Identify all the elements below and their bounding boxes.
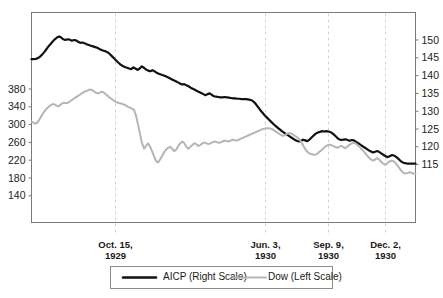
right-tick-label-120: 120 bbox=[422, 140, 440, 152]
x-label-line1-2: Jun. 3, bbox=[250, 239, 280, 250]
x-label-line1-1: Oct. 15, bbox=[98, 239, 132, 250]
right-tick-label-135: 135 bbox=[422, 87, 440, 99]
left-tick-label-340: 340 bbox=[8, 100, 26, 112]
series-lines bbox=[32, 36, 416, 173]
x-axis-event-labels: Oct. 15,1929Jun. 3,1930Sep. 9,1930Dec. 2… bbox=[98, 239, 400, 261]
series-line-dow bbox=[32, 89, 416, 173]
chart-container: 380340300260220180140 150145140135130125… bbox=[0, 0, 443, 298]
x-label-line1-3: Sep. 9, bbox=[313, 239, 344, 250]
left-tick-label-260: 260 bbox=[8, 136, 26, 148]
right-tick-label-145: 145 bbox=[422, 51, 440, 63]
right-tick-label-130: 130 bbox=[422, 105, 440, 117]
line-chart: 380340300260220180140 150145140135130125… bbox=[0, 0, 443, 298]
right-tick-label-140: 140 bbox=[422, 69, 440, 81]
x-label-line2-3: 1930 bbox=[318, 250, 339, 261]
left-tick-label-140: 140 bbox=[8, 189, 26, 201]
right-tick-label-125: 125 bbox=[422, 123, 440, 135]
left-axis-tick-labels: 380340300260220180140 bbox=[8, 83, 26, 202]
legend-label-dow: Dow (Left Scale) bbox=[268, 271, 342, 282]
x-label-line1-4: Dec. 2, bbox=[370, 239, 401, 250]
right-tick-label-150: 150 bbox=[422, 34, 440, 46]
x-label-line2-4: 1930 bbox=[375, 250, 396, 261]
x-label-line2-2: 1930 bbox=[255, 250, 276, 261]
left-tick-label-220: 220 bbox=[8, 154, 26, 166]
left-tick-label-380: 380 bbox=[8, 83, 26, 95]
left-tick-label-180: 180 bbox=[8, 172, 26, 184]
right-tick-label-115: 115 bbox=[422, 158, 439, 170]
right-axis-tick-labels: 150145140135130125120115 bbox=[422, 34, 440, 171]
left-tick-label-300: 300 bbox=[8, 118, 26, 130]
x-label-line2-1: 1929 bbox=[105, 250, 126, 261]
event-gridlines bbox=[116, 14, 386, 237]
